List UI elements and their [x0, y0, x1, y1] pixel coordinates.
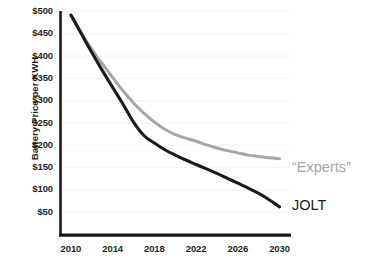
y-tick-200: $200 [13, 139, 53, 150]
y-tick-250: $250 [13, 117, 53, 128]
series-line-jolt [71, 15, 280, 207]
y-tick-450: $450 [13, 27, 53, 38]
y-tick-300: $300 [13, 94, 53, 105]
y-tick-50: $50 [13, 206, 53, 217]
y-tick-350: $350 [13, 72, 53, 83]
series-line-experts [71, 15, 280, 159]
x-tick-2022: 2022 [174, 243, 218, 254]
x-tick-2026: 2026 [216, 243, 260, 254]
gridlines [61, 12, 291, 213]
series-label-jolt: JOLT [292, 197, 326, 213]
data-series [71, 15, 280, 207]
x-tick-2018: 2018 [132, 243, 176, 254]
y-tick-500: $500 [13, 5, 53, 16]
x-tick-2014: 2014 [91, 243, 135, 254]
chart-plot-area [0, 0, 376, 268]
x-tick-2010: 2010 [49, 243, 93, 254]
y-tick-400: $400 [13, 50, 53, 61]
y-tick-150: $150 [13, 161, 53, 172]
x-tick-2030: 2030 [258, 243, 302, 254]
y-tick-100: $100 [13, 183, 53, 194]
chart-container: Battery Price per KWH $50$100$150$200$25… [0, 0, 376, 268]
series-label-experts: “Experts” [292, 159, 351, 175]
